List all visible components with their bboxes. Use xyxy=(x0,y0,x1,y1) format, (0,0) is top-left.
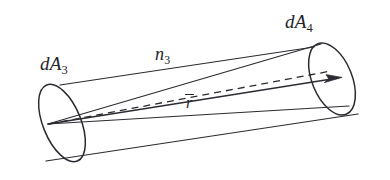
cone-upper-edge xyxy=(60,47,314,85)
label-dA3-subscript: 3 xyxy=(62,63,68,77)
label-r: r xyxy=(186,95,192,111)
diagram-canvas xyxy=(0,0,390,180)
label-dA4-subscript: 4 xyxy=(307,21,313,35)
label-dA3-base: dA xyxy=(40,53,62,74)
cone-apex-upper-ray xyxy=(48,44,321,124)
label-n3-subscript: 3 xyxy=(164,53,170,67)
label-r-text: r xyxy=(186,94,192,111)
label-n3: n3 xyxy=(155,45,170,67)
label-dA4-base: dA xyxy=(285,11,307,32)
normal-vector-n3-arrow xyxy=(48,75,342,124)
label-r-overbar xyxy=(185,94,194,95)
label-r-base: r xyxy=(186,95,192,111)
label-dA3: dA3 xyxy=(40,54,68,77)
cone-apex-lower-ray xyxy=(48,106,349,124)
label-n3-base: n xyxy=(155,44,164,64)
label-dA4: dA4 xyxy=(285,12,313,35)
figure-container: dA3 dA4 n3 r xyxy=(0,0,390,180)
